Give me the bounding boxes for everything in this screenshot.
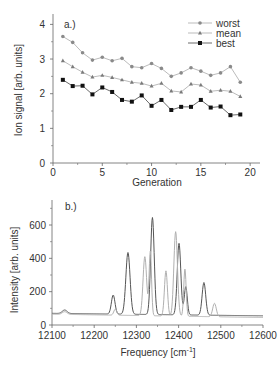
circle-marker — [91, 58, 95, 62]
legend: worstmeanbest — [188, 18, 241, 49]
spectrum-light — [52, 232, 263, 318]
triangle-marker — [189, 82, 193, 86]
panel-label: b.) — [65, 201, 77, 212]
y-axis-title: Intensity [arb. units] — [9, 226, 20, 313]
y-tick-label: 4 — [39, 19, 45, 30]
triangle-marker — [71, 64, 75, 68]
square-marker — [169, 108, 173, 112]
y-tick-label: 3 — [39, 54, 45, 65]
circle-marker — [130, 65, 134, 69]
circle-marker — [198, 21, 202, 25]
y-tick-label: 400 — [29, 253, 46, 264]
circle-marker — [199, 69, 203, 73]
x-tick-label: 5 — [100, 167, 106, 178]
circle-marker — [61, 35, 65, 39]
x-tick-label: 12300 — [122, 330, 150, 341]
x-tick-label: 12500 — [207, 330, 235, 341]
square-marker — [228, 113, 232, 117]
circle-marker — [140, 66, 144, 70]
square-marker — [100, 85, 104, 89]
y-tick-label: 600 — [29, 220, 46, 231]
x-tick-label: 0 — [50, 167, 56, 178]
spectrum-dark — [52, 218, 263, 316]
x-tick-label: 20 — [245, 167, 257, 178]
circle-marker — [229, 65, 233, 69]
square-marker — [90, 92, 94, 96]
circle-marker — [81, 51, 85, 55]
series-best — [61, 78, 242, 117]
y-tick-label: 0 — [40, 320, 46, 331]
circle-marker — [238, 80, 242, 84]
square-marker — [61, 78, 65, 82]
panel-label: a.) — [64, 19, 76, 30]
triangle-marker — [100, 73, 104, 77]
triangle-marker — [219, 88, 223, 92]
square-marker — [150, 104, 154, 108]
circle-marker — [71, 41, 75, 45]
square-marker — [209, 106, 213, 110]
square-marker — [159, 98, 163, 102]
y-tick-label: 200 — [29, 286, 46, 297]
y-tick-label: 2 — [39, 88, 45, 99]
circle-marker — [120, 57, 124, 61]
circle-marker — [189, 66, 193, 70]
legend-label-best: best — [216, 38, 235, 49]
panel-b: 1210012200123001240012500126000200400600… — [9, 200, 277, 358]
series-line — [63, 61, 240, 97]
square-marker — [120, 98, 124, 102]
square-marker — [199, 98, 203, 102]
figure: 0510152001234GenerationIon signal [arb. … — [0, 0, 280, 371]
circle-marker — [169, 75, 173, 79]
square-marker — [238, 112, 242, 116]
y-axis-title: Ion signal [arb. units] — [13, 44, 24, 136]
y-tick-label: 0 — [39, 158, 45, 169]
x-axis-title: Frequency [cm-1] — [120, 346, 195, 358]
square-marker — [81, 84, 85, 88]
x-tick-label: 12600 — [249, 330, 277, 341]
x-tick-label: 12200 — [80, 330, 108, 341]
circle-marker — [160, 67, 164, 71]
square-marker — [110, 90, 114, 94]
circle-marker — [100, 56, 104, 60]
panel-a: 0510152001234GenerationIon signal [arb. … — [13, 14, 260, 188]
circle-marker — [150, 62, 154, 66]
x-tick-label: 15 — [195, 167, 207, 178]
x-tick-label: 12100 — [38, 330, 66, 341]
square-marker — [130, 100, 134, 104]
circle-marker — [110, 59, 114, 63]
x-tick-label: 12400 — [165, 330, 193, 341]
triangle-marker — [61, 59, 65, 63]
square-marker — [198, 41, 202, 45]
circle-marker — [219, 71, 223, 75]
circle-marker — [179, 71, 183, 75]
triangle-marker — [159, 81, 163, 85]
x-axis-title: Generation — [132, 177, 181, 188]
triangle-marker — [169, 89, 173, 93]
square-marker — [189, 105, 193, 109]
square-marker — [140, 93, 144, 97]
square-marker — [219, 105, 223, 109]
circle-marker — [209, 74, 213, 78]
square-marker — [71, 84, 75, 88]
y-tick-label: 1 — [39, 123, 45, 134]
square-marker — [179, 105, 183, 109]
series-worst — [61, 35, 242, 84]
